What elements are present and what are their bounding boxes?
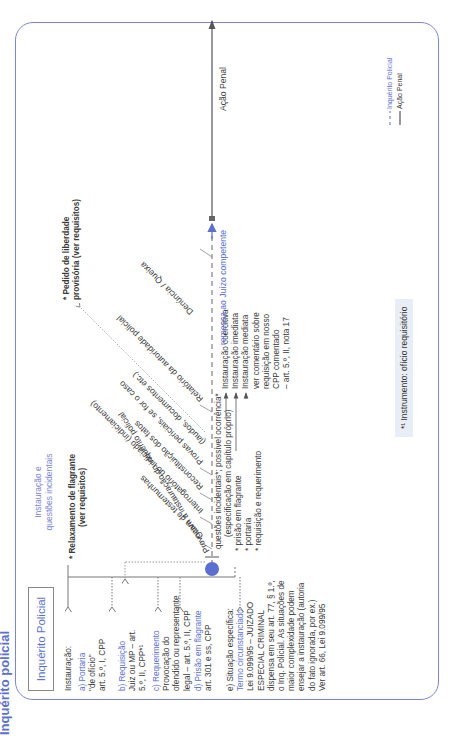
tipos-right: Instauração coercitiva Instauração imedi…	[221, 309, 292, 389]
note-line: * Relaxamento de flagrante	[68, 454, 78, 559]
item-label: c) Requerimento	[152, 556, 162, 691]
tipo-item: * portaria	[244, 451, 254, 551]
tipo-result: Instauração imediata	[231, 309, 241, 389]
acao-penal-label: Ação Penal	[218, 67, 228, 111]
instauracao-item-requisicao: b) Requisição Juiz ou MP – art. 5.º, II,…	[118, 556, 149, 691]
item-label: d) Prisão em flagrante	[194, 556, 204, 691]
tipo-comment: ver comentário sobre	[252, 309, 262, 389]
note-line: (ver requisitos)	[78, 454, 88, 559]
instauracao-item-portaria: a) Portaria "de ofício" art. 5.º, I, CPP	[78, 556, 109, 691]
tipo-comment: CPP comentado	[272, 309, 282, 389]
item-line: 5.º, II, CPP*¹	[138, 556, 148, 691]
item-line: maior complexidade podem	[287, 556, 297, 691]
note-line: * Pedido de liberdade	[62, 199, 72, 300]
item-line: legal – art. 5.º, II, CPP	[183, 556, 193, 691]
legend-inquerito: Inquérito Policial	[385, 58, 395, 109]
instauracao-item-termo: e) Situação específica: Termo circunstan…	[226, 556, 328, 691]
item-line: art. 5.º, I, CPP	[98, 556, 108, 691]
item-line: ESPECIAL CRIMINAL	[257, 556, 267, 691]
relaxamento-note: * Relaxamento de flagrante (ver requisit…	[68, 454, 88, 559]
item-line: art. 301 e ss, CPP	[204, 556, 214, 691]
item-line: do fato ignorada, por ex.)	[308, 556, 318, 691]
item-line: ensejar a instauração (autoria	[297, 556, 307, 691]
legend: Inquérito Policial Ação Penal	[385, 58, 405, 109]
item-prefix: e) Situação específica:	[226, 556, 236, 691]
tipo-result: Instauração mediata	[241, 309, 251, 389]
tipo-comment: requisição em nosso	[262, 309, 272, 389]
section-heading-line: Instauração e	[33, 447, 44, 537]
item-label: a) Portaria	[78, 556, 88, 691]
tipo-comment: – art. 5.º, II, nota 17	[282, 309, 292, 389]
item-line: Lei 9.099/95 – JUIZADO	[246, 556, 256, 691]
item-line: o Inq. Policial. As situações de	[277, 556, 287, 691]
tipos-left: * prisão em flagrante * portaria * requi…	[221, 451, 265, 551]
section-heading-line: questões incidentais	[44, 447, 55, 537]
section-heading: Instauração e questões incidentais	[33, 447, 55, 537]
item-label: Termo circunstanciado	[236, 556, 246, 691]
item-line: ofendido ou representante	[172, 556, 182, 691]
item-line: "de ofício"	[88, 556, 98, 691]
item-line: dispensa em seu art. 77, § 1.º,	[267, 556, 277, 691]
diagram-page: Inquérito policial	[0, 0, 452, 737]
tipo-item: * prisão em flagrante	[234, 451, 244, 551]
item-label: b) Requisição	[118, 556, 128, 691]
instrumento-note: *¹ Instrumento: ofício requisitório	[395, 299, 413, 437]
remessa-label: remessa ao Juízo competente	[218, 230, 228, 345]
legend-acao-penal: Ação Penal	[395, 58, 405, 109]
note-line: provisória (ver requisitos)	[72, 199, 82, 300]
inquerito-policial-box: Inquérito Policial	[28, 587, 54, 691]
item-line: Provocação do	[162, 556, 172, 691]
item-line: Ver art. 66, Lei 9.099/95	[318, 556, 328, 691]
tipo-item: * requisição e requerimento	[254, 451, 264, 551]
item-line: Juiz ou MP – art.	[128, 556, 138, 691]
liberdade-note: * Pedido de liberdade provisória (ver re…	[62, 199, 82, 300]
instauracao-heading: Instauração:	[64, 556, 74, 691]
instauracao-item-requerimento: c) Requerimento Provocação do ofendido o…	[152, 556, 193, 691]
instauracao-item-prisao: d) Prisão em flagrante art. 301 e ss, CP…	[194, 556, 214, 691]
